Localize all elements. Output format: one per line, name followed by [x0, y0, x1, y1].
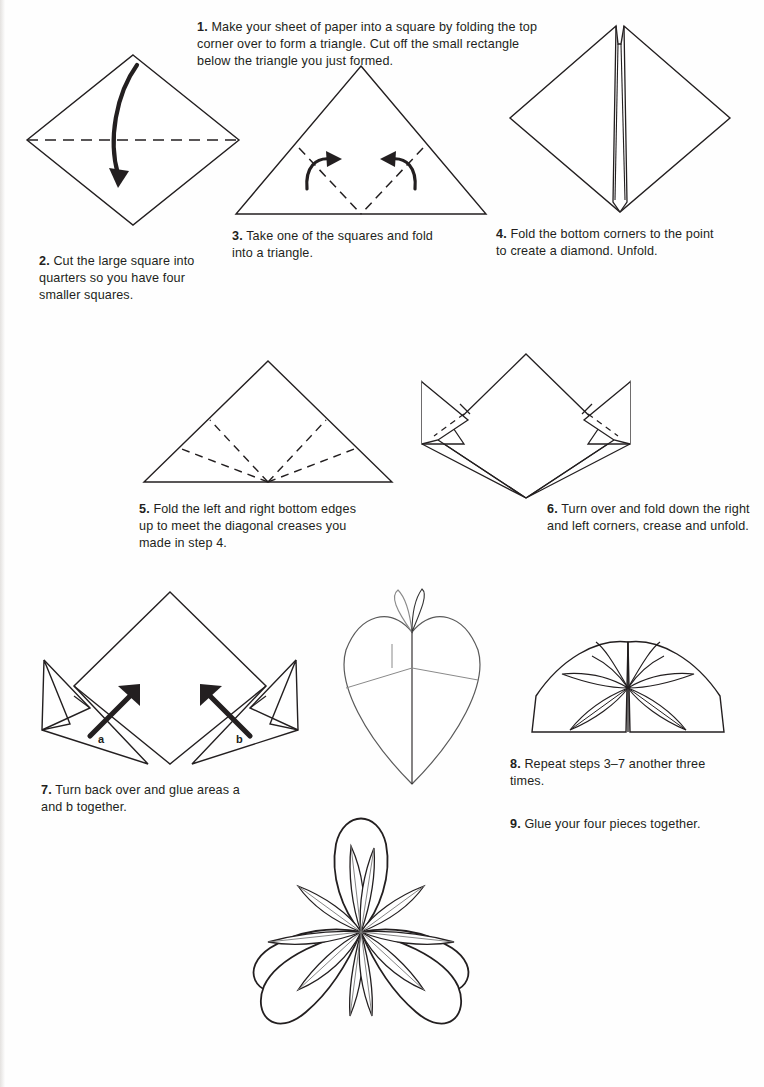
- step-8-text: Repeat steps 3–7 another three times.: [510, 757, 705, 788]
- step-1-text: Make your sheet of paper into a square b…: [197, 20, 537, 68]
- step-3-text: Take one of the squares and fold into a …: [232, 229, 433, 260]
- step-9-text: Glue your four pieces together.: [524, 817, 700, 831]
- figure-two-joined-petals: [508, 618, 748, 738]
- step-3-number: 3.: [232, 229, 243, 243]
- step-5-caption: 5. Fold the left and right bottom edges …: [139, 501, 357, 552]
- figure-step-6: [398, 352, 654, 500]
- step-6-caption: 6. Turn over and fold down the right and…: [547, 501, 752, 535]
- glue-area-b-label: b: [236, 733, 243, 745]
- figure-step-4: [505, 22, 735, 217]
- step-5-number: 5.: [139, 502, 150, 516]
- step-9-caption: 9. Glue your four pieces together.: [510, 816, 742, 833]
- triangle-outline: [236, 66, 486, 214]
- instruction-page: 1. Make your sheet of paper into a squar…: [0, 0, 764, 1087]
- triangle-outline: [144, 361, 392, 482]
- step-4-caption: 4. Fold the bottom corners to the point …: [496, 226, 724, 260]
- center-diamond-body: [438, 354, 614, 498]
- step-2-number: 2.: [39, 254, 50, 268]
- step-8-number: 8.: [510, 757, 521, 771]
- step-4-text: Fold the bottom corners to the point to …: [496, 227, 714, 258]
- step-6-text: Turn over and fold down the right and le…: [547, 502, 750, 533]
- figure-step-7: a b: [28, 588, 312, 766]
- figure-finished-flower: [202, 802, 520, 1070]
- step-7-number: 7.: [41, 783, 52, 797]
- glue-area-a-label: a: [98, 733, 105, 745]
- figure-step-5: [140, 358, 396, 486]
- step-4-number: 4.: [496, 227, 507, 241]
- step-8-caption: 8. Repeat steps 3–7 another three times.: [510, 756, 715, 790]
- step-2-caption: 2. Cut the large square into quarters so…: [39, 253, 217, 304]
- figure-single-cone-petal: [318, 588, 506, 790]
- step-6-number: 6.: [547, 502, 558, 516]
- left-crease-tick: [460, 404, 470, 414]
- diamond-slit-outline: [510, 26, 730, 212]
- step-5-text: Fold the left and right bottom edges up …: [139, 502, 356, 550]
- step-1-number: 1.: [197, 20, 208, 34]
- figure-step-1: [24, 52, 242, 228]
- right-crease-tick: [582, 404, 592, 414]
- page-edge-shading: [0, 0, 5, 1087]
- figure-step-3: [232, 62, 490, 218]
- step-2-text: Cut the large square into quarters so yo…: [39, 254, 194, 302]
- step-3-caption: 3. Take one of the squares and fold into…: [232, 228, 454, 262]
